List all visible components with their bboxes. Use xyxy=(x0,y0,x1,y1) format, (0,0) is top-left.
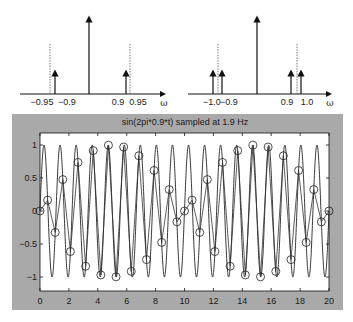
frequency-tick-label: −0.9 xyxy=(220,97,238,107)
y-tick-label: −0.5 xyxy=(19,239,37,249)
x-tick-label: 8 xyxy=(153,296,158,306)
x-tick-label: 4 xyxy=(95,296,100,306)
frequency-tick-label: 0.95 xyxy=(129,97,147,107)
frequency-tick-label: −1.0 xyxy=(203,97,221,107)
x-tick-label: 14 xyxy=(237,296,247,306)
spectrum-right: −1.0−0.90.91.0ω xyxy=(188,19,334,108)
y-tick-label: 0.5 xyxy=(24,173,37,183)
x-tick-label: 12 xyxy=(208,296,218,306)
spectrum-left: −0.95−0.90.90.95ω xyxy=(20,19,168,108)
x-tick-label: 18 xyxy=(295,296,305,306)
frequency-tick-label: −0.95 xyxy=(31,97,54,107)
x-tick-label: 10 xyxy=(179,296,189,306)
frequency-tick-label: 1.0 xyxy=(301,97,314,107)
x-tick-label: 2 xyxy=(66,296,71,306)
omega-axis-label: ω xyxy=(326,98,333,108)
x-tick-label: 0 xyxy=(37,296,42,306)
y-tick-label: 1 xyxy=(32,140,37,150)
chart-title: sin(2pi*0.9*t) sampled at 1.9 Hz xyxy=(122,117,249,127)
x-tick-label: 6 xyxy=(124,296,129,306)
frequency-tick-label: −0.9 xyxy=(58,97,76,107)
y-tick-label: −1 xyxy=(27,272,37,282)
frequency-tick-label: 0.9 xyxy=(112,97,125,107)
frequency-tick-label: 0.9 xyxy=(281,97,294,107)
omega-axis-label: ω xyxy=(160,98,167,108)
x-tick-label: 16 xyxy=(266,296,276,306)
x-tick-label: 20 xyxy=(324,296,334,306)
